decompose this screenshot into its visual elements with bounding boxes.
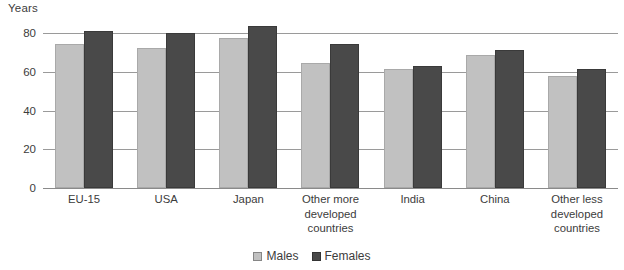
x-axis-label-line: countries <box>290 221 370 236</box>
x-axis-label-line: Japan <box>208 192 288 207</box>
y-tick-label-60: 60 <box>0 66 36 78</box>
bar-group <box>125 33 207 188</box>
gridline-0 <box>43 188 618 189</box>
legend-label-females: Females <box>325 249 371 263</box>
x-axis-label: USA <box>125 192 207 236</box>
bar-males[interactable] <box>466 55 495 188</box>
bar-females[interactable] <box>248 26 277 188</box>
x-axis-label-line: China <box>455 192 535 207</box>
bar-males[interactable] <box>301 63 330 188</box>
x-axis-label: Other moredevelopedcountries <box>289 192 371 236</box>
x-axis-label-line: developed <box>290 207 370 222</box>
x-axis-label: India <box>372 192 454 236</box>
bar-females[interactable] <box>577 69 606 188</box>
bar-group <box>454 33 536 188</box>
bar-females[interactable] <box>330 44 359 188</box>
bar-females[interactable] <box>84 31 113 188</box>
bar-males[interactable] <box>548 76 577 188</box>
legend-swatch-males-icon <box>253 252 262 261</box>
bar-males[interactable] <box>219 38 248 188</box>
bar-males[interactable] <box>55 44 84 188</box>
x-axis-label: Other lessdevelopedcountries <box>536 192 618 236</box>
bar-females[interactable] <box>413 66 442 188</box>
y-tick-label-80: 80 <box>0 27 36 39</box>
bar-males[interactable] <box>137 48 166 188</box>
y-tick-label-20: 20 <box>0 143 36 155</box>
legend-swatch-females-icon <box>312 252 321 261</box>
x-axis-label: EU-15 <box>43 192 125 236</box>
bar-group <box>536 33 618 188</box>
x-axis-label: Japan <box>207 192 289 236</box>
legend-item-females[interactable]: Females <box>312 249 371 263</box>
x-axis-labels: EU-15USAJapanOther moredevelopedcountrie… <box>43 192 618 236</box>
y-tick-label-40: 40 <box>0 105 36 117</box>
bar-females[interactable] <box>166 33 195 188</box>
bar-group <box>43 33 125 188</box>
x-axis-label-line: EU-15 <box>44 192 124 207</box>
x-axis-label-line: countries <box>537 221 617 236</box>
bar-males[interactable] <box>384 69 413 188</box>
legend-label-males: Males <box>266 249 298 263</box>
bar-group <box>289 33 371 188</box>
y-axis-title: Years <box>8 2 38 14</box>
bar-females[interactable] <box>495 50 524 188</box>
x-axis-label-line: Other more <box>290 192 370 207</box>
x-axis-label-line: USA <box>126 192 206 207</box>
x-axis-label-line: India <box>373 192 453 207</box>
legend-item-males[interactable]: Males <box>253 249 298 263</box>
chart-legend: Males Females <box>0 249 624 263</box>
bar-chart: Years 020406080 EU-15USAJapanOther mored… <box>0 0 624 270</box>
y-tick-label-0: 0 <box>0 182 36 194</box>
bar-groups <box>43 33 618 188</box>
x-axis-label-line: Other less <box>537 192 617 207</box>
bar-group <box>207 33 289 188</box>
x-axis-label: China <box>454 192 536 236</box>
bar-group <box>372 33 454 188</box>
x-axis-label-line: developed <box>537 207 617 222</box>
